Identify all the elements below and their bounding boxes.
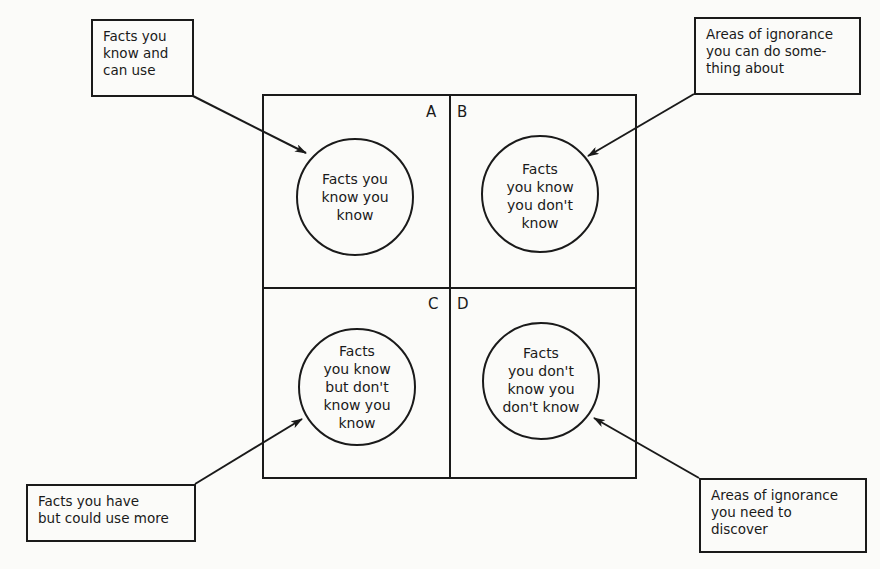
callout-bottom-right: Areas of ignorance you need to discover [699, 478, 867, 553]
circle-d-text: Facts you don't know you don't know [502, 344, 579, 416]
quadrant-label-d: D [457, 297, 469, 312]
quadrant-label-c: C [428, 297, 438, 312]
callout-top-right: Areas of ignorance you can do some- thin… [694, 17, 861, 95]
arrow-top-left [193, 96, 306, 153]
arrow-bottom-right [594, 418, 699, 478]
circle-c-text: Facts you know but don't know you know [323, 342, 390, 432]
arrow-bottom-left [195, 419, 302, 484]
quadrant-label-b: B [457, 105, 467, 120]
callout-top-left: Facts you know and can use [91, 19, 194, 97]
circle-b-text: Facts you know you don't know [506, 160, 573, 232]
callout-bottom-left: Facts you have but could use more [26, 484, 196, 542]
arrow-top-right [588, 94, 694, 156]
circle-a-text: Facts you know you know [321, 170, 388, 224]
quadrant-label-a: A [426, 105, 436, 120]
